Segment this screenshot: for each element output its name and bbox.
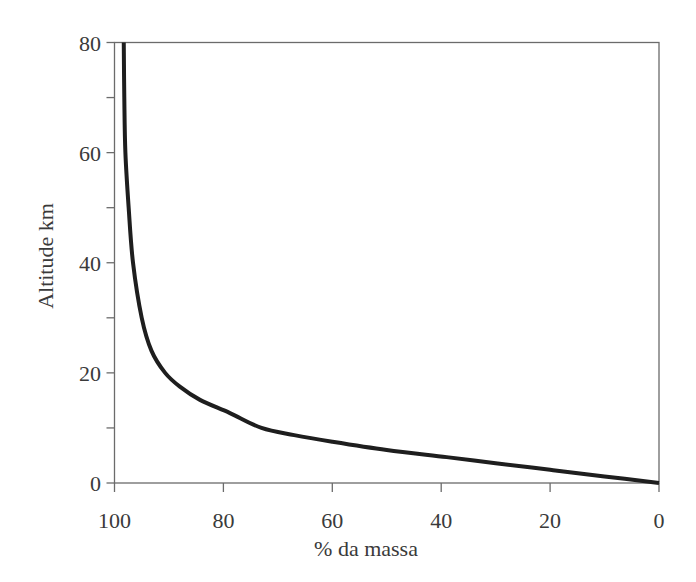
x-axis-tick-labels: 100806040200 bbox=[98, 508, 665, 533]
x-tick-label: 60 bbox=[321, 508, 343, 533]
data-series-line bbox=[124, 43, 659, 484]
x-tick-label: 0 bbox=[654, 508, 665, 533]
x-axis-label: % da massa bbox=[314, 536, 418, 561]
altitude-mass-chart: 020406080 100806040200 % da massa Altitu… bbox=[0, 0, 696, 582]
plot-frame bbox=[115, 43, 660, 484]
y-tick-label: 60 bbox=[79, 141, 101, 166]
y-axis-label: Altitude km bbox=[33, 203, 58, 309]
y-tick-label: 80 bbox=[79, 31, 101, 56]
plot-area-border bbox=[115, 43, 660, 484]
y-tick-label: 20 bbox=[79, 361, 101, 386]
y-axis-ticks bbox=[107, 43, 115, 484]
y-axis-tick-labels: 020406080 bbox=[79, 31, 101, 497]
x-axis-ticks bbox=[115, 483, 660, 492]
y-tick-label: 0 bbox=[90, 471, 101, 496]
y-tick-label: 40 bbox=[79, 251, 101, 276]
x-tick-label: 20 bbox=[539, 508, 561, 533]
x-tick-label: 100 bbox=[98, 508, 131, 533]
x-tick-label: 80 bbox=[212, 508, 234, 533]
x-tick-label: 40 bbox=[430, 508, 452, 533]
